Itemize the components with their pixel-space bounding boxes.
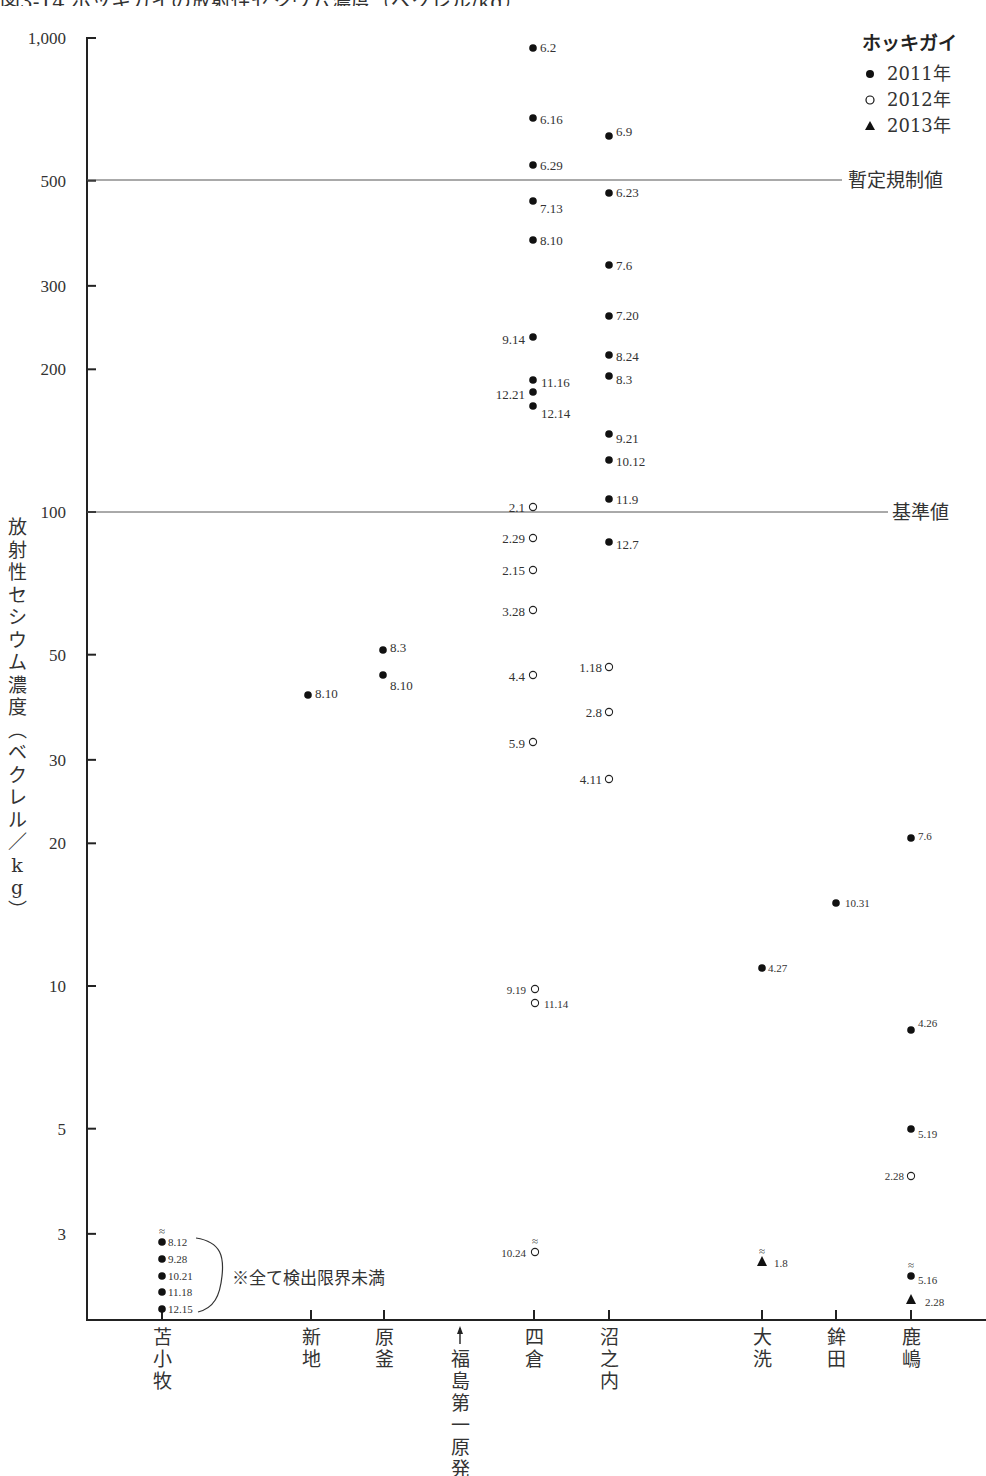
point-date-label: 6.23 [616,185,639,200]
filled-circle-icon [605,261,613,269]
data-point: 10.21 [158,1270,193,1282]
point-date-label: 6.9 [616,124,632,139]
detection-limit-note: ※全て検出限界未満 [196,1238,385,1312]
y-axis: 1,0005003002001005030201053 [28,29,96,1320]
point-date-label: 8.3 [390,640,406,655]
data-point: 2.29 [502,531,536,546]
category-label: 鉾田 [827,1326,846,1370]
filled-circle-icon [529,161,537,169]
legend-label-2013: 2013年 [887,115,951,136]
data-point: 6.29 [529,158,563,173]
x-axis [86,1310,986,1320]
data-point: 7.6 [605,258,633,273]
point-date-label: 7.20 [616,308,639,323]
filled-circle-icon [605,351,613,359]
data-point: 12.15 [158,1303,193,1315]
point-date-label: 7.6 [918,830,932,842]
data-point: 8.10 [379,671,413,693]
data-point: 8.3 [605,372,632,387]
category-label: 原釜 [375,1326,394,1370]
data-point: 4.11 [580,772,613,787]
filled-circle-icon [158,1272,166,1280]
data-point: 12.14 [529,402,571,421]
y-tick-label: 10 [49,977,66,996]
reference-label-standard: 基準値 [892,501,949,523]
data-point: 4.26 [907,1017,938,1034]
filled-circle-icon [605,312,613,320]
data-point: 7.13 [529,197,563,216]
open-circle-icon [907,1172,914,1179]
scatter-chart: 1,0005003002001005030201053 暫定規制値 基準値 放射… [0,0,986,1476]
filled-circle-icon [529,236,537,244]
y-tick-label: 300 [41,277,67,296]
point-date-label: 6.16 [540,112,563,127]
approx-icon: ≈ [532,1235,538,1247]
point-date-label: 8.12 [168,1236,187,1248]
filled-circle-icon [529,197,537,205]
category-label: 大洗 [753,1326,772,1370]
data-point: ≈1.8 [757,1245,788,1269]
point-date-label: 4.27 [768,962,788,974]
point-date-label: 1.8 [774,1257,788,1269]
category-label: 沼之内 [600,1326,619,1392]
y-tick-label: 1,000 [28,29,66,48]
approx-icon: ≈ [908,1259,914,1271]
filled-circle-icon [379,671,387,679]
data-point: 8.3 [379,640,406,655]
point-date-label: 5.16 [918,1274,938,1286]
point-date-label: 11.14 [544,998,569,1010]
point-date-label: 8.3 [616,372,632,387]
filled-triangle-icon [906,1294,916,1304]
point-date-label: 2.28 [885,1170,905,1182]
point-date-label: 8.10 [390,678,413,693]
data-point: 9.21 [605,430,639,446]
point-date-label: 11.16 [541,375,570,390]
filled-circle-icon [529,376,537,384]
point-date-label: 9.19 [507,984,527,996]
data-point: 2.28 [885,1170,915,1182]
y-axis-label: 放射性セシウム濃度︵ベクレル／kg︶ [8,516,27,921]
filled-circle-icon [304,691,312,699]
y-tick-label: 30 [49,751,66,770]
open-circle-icon [529,671,536,678]
point-date-label: 4.4 [509,669,526,684]
filled-circle-icon [379,646,387,654]
point-date-label: 12.21 [496,387,525,402]
point-date-label: 10.24 [501,1247,526,1259]
data-point: 11.9 [605,492,638,507]
point-date-label: 2.8 [586,705,602,720]
point-date-label: 10.31 [845,897,870,909]
data-point: 2.28 [906,1294,945,1308]
data-point: 2.1 [509,500,537,515]
point-date-label: 6.2 [540,40,556,55]
point-date-label: 12.7 [616,537,639,552]
filled-circle-icon [605,495,613,503]
filled-circle-icon [529,388,537,396]
point-date-label: 5.19 [918,1128,938,1140]
filled-circle-icon [832,899,840,907]
note-below-detection: ※全て検出限界未満 [232,1268,385,1288]
category-labels: 苫小牧新地原釜四倉沼之内大洗鉾田鹿嶋福島第一原発 [153,1326,921,1476]
category-label: 苫小牧 [153,1326,172,1392]
filled-circle-icon [907,1125,915,1133]
filled-circle-icon [907,1026,915,1034]
plant-location-label: 福島第一原発 [451,1348,470,1476]
category-label: 新地 [302,1326,321,1370]
data-point: 11.14 [531,998,568,1010]
point-date-label: 9.14 [502,332,525,347]
point-date-label: 11.9 [616,492,638,507]
open-circle-icon [529,738,536,745]
reference-label-provisional: 暫定規制値 [848,169,943,191]
filled-circle-icon [605,456,613,464]
data-point: 10.12 [605,454,645,469]
data-point: 8.24 [605,349,639,364]
point-date-label: 5.9 [509,736,525,751]
filled-circle-icon [158,1238,166,1246]
open-circle-icon [529,606,536,613]
legend: ホッキガイ 2011年 2012年 2013年 [862,32,957,136]
data-point: 9.28 [158,1253,188,1265]
approx-icon: ≈ [159,1225,165,1237]
data-point: 2.15 [502,563,536,578]
y-tick-label: 5 [58,1120,67,1139]
point-date-label: 3.28 [502,604,525,619]
